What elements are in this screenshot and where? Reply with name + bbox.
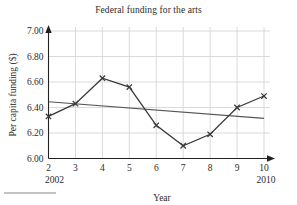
y-tick-label-6.60: 6.60 bbox=[27, 77, 44, 87]
y-axis-arrow-icon bbox=[45, 25, 51, 33]
x-axis-title: Year bbox=[153, 193, 171, 203]
x-tick-label-7: 7 bbox=[181, 163, 186, 173]
x-tick-label-6: 6 bbox=[154, 163, 159, 173]
axes-group bbox=[45, 25, 275, 162]
page-scan-rule bbox=[4, 192, 56, 194]
chart-page: Federal funding for the arts 6.006.206.4… bbox=[0, 0, 297, 205]
y-tick-label-6.40: 6.40 bbox=[27, 103, 44, 113]
x-tick-labels: 2345678910 bbox=[46, 163, 269, 173]
x-tick-label-2: 2 bbox=[46, 163, 51, 173]
y-tick-label-6.20: 6.20 bbox=[27, 128, 44, 138]
x-tick-label-8: 8 bbox=[208, 163, 213, 173]
y-tick-label-7.00: 7.00 bbox=[27, 26, 44, 36]
y-axis-title: Per capita funding ($) bbox=[8, 53, 19, 136]
chart-svg: 6.006.206.406.606.807.00 2345678910 2002… bbox=[0, 0, 297, 205]
x-tick-label-10: 10 bbox=[259, 163, 269, 173]
y-tick-label-6.00: 6.00 bbox=[27, 154, 44, 164]
x-axis-arrow-icon bbox=[267, 155, 275, 161]
y-tick-label-6.80: 6.80 bbox=[27, 52, 44, 62]
x-tick-label-4: 4 bbox=[100, 163, 105, 173]
x-tick-label-9: 9 bbox=[235, 163, 240, 173]
x-tick-label-3: 3 bbox=[73, 163, 78, 173]
x-tick-label-5: 5 bbox=[127, 163, 132, 173]
x-axis-start-year-label: 2002 bbox=[45, 175, 64, 185]
x-axis-end-year-label: 2010 bbox=[257, 175, 276, 185]
y-tick-labels: 6.006.206.406.606.807.00 bbox=[27, 26, 44, 164]
gridlines-group bbox=[49, 27, 271, 159]
plot-area: 6.006.206.406.606.807.00 2345678910 2002… bbox=[0, 0, 297, 205]
